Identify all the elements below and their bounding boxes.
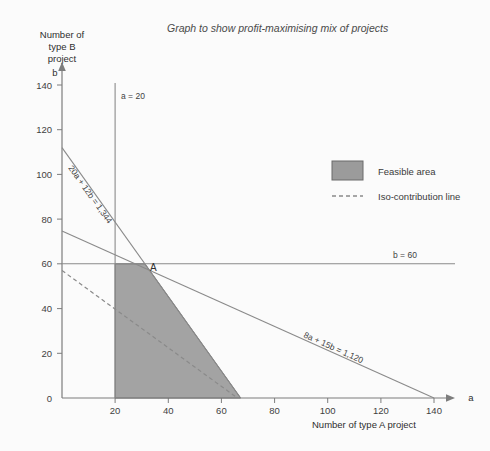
x-tick-label-40: 40 <box>163 405 174 416</box>
y-axis-tick-labels: 140 120 100 80 60 40 20 0 <box>36 80 52 404</box>
legend-label-iso-contribution: Iso-contribution line <box>378 191 460 202</box>
y-axis-title-line-3: project <box>48 53 77 64</box>
y-axis-letter: b <box>52 67 57 78</box>
y-tick-label-40: 40 <box>41 303 52 314</box>
y-tick-label-80: 80 <box>41 214 52 225</box>
y-axis-title-line-1: Number of <box>40 29 85 40</box>
x-axis-arrow-icon <box>446 394 455 402</box>
y-tick-label-0: 0 <box>47 393 52 404</box>
x-axis-ticks <box>115 398 434 403</box>
x-tick-label-20: 20 <box>110 405 121 416</box>
profit-maximising-chart: Graph to show profit-maximising mix of p… <box>0 0 490 451</box>
y-axis-ticks <box>57 85 62 353</box>
y-axis-title-line-2: type B <box>49 41 76 52</box>
constraint-label-20a-12b: 20a + 12b = 1,344 <box>66 163 114 225</box>
constraint-label-b-60: b = 60 <box>393 250 417 260</box>
optimal-vertex-label: A <box>150 262 157 273</box>
x-axis-letter: a <box>468 392 474 403</box>
y-tick-label-120: 120 <box>36 124 52 135</box>
legend-swatch-feasible-area <box>332 161 363 180</box>
feasible-area-polygon <box>115 264 241 398</box>
chart-legend: Feasible area Iso-contribution line <box>332 161 460 202</box>
x-axis-tick-labels: 20 40 60 80 100 120 140 <box>110 405 442 416</box>
y-tick-label-20: 20 <box>41 348 52 359</box>
chart-page: Graph to show profit-maximising mix of p… <box>0 0 490 451</box>
constraint-label-8a-15b: 8a + 15b = 1,120 <box>302 330 365 366</box>
y-tick-label-140: 140 <box>36 80 52 91</box>
x-tick-label-120: 120 <box>373 405 389 416</box>
chart-title: Graph to show profit-maximising mix of p… <box>167 22 389 34</box>
y-tick-label-100: 100 <box>36 169 52 180</box>
legend-label-feasible-area: Feasible area <box>378 166 436 177</box>
x-tick-label-80: 80 <box>269 405 280 416</box>
constraint-label-a-20: a = 20 <box>121 91 145 101</box>
y-tick-label-60: 60 <box>41 258 52 269</box>
x-axis-title: Number of type A project <box>312 419 416 430</box>
x-tick-label-140: 140 <box>426 405 442 416</box>
x-tick-label-100: 100 <box>320 405 336 416</box>
x-tick-label-60: 60 <box>216 405 227 416</box>
